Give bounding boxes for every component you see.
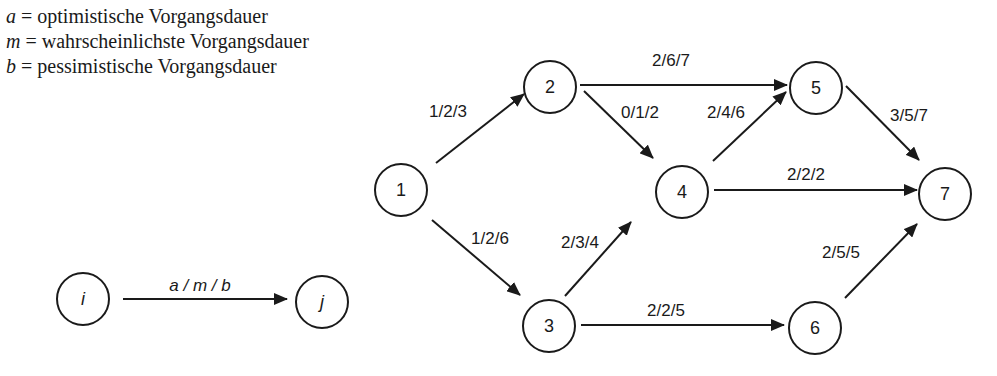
node-7: 7 (919, 168, 971, 220)
svg-text:7: 7 (940, 184, 950, 204)
edge-2-5: 2/6/7 (580, 51, 787, 85)
key-node-i: i (57, 273, 109, 325)
svg-text:2/4/6: 2/4/6 (707, 103, 745, 122)
svg-text:6: 6 (810, 318, 820, 338)
edge-1-3: 1/2/6 (432, 220, 520, 295)
edge-3-4: 2/3/4 (561, 222, 631, 296)
svg-text:2/5/5: 2/5/5 (822, 243, 860, 262)
svg-text:2/6/7: 2/6/7 (652, 51, 690, 70)
key-node-j: j (296, 276, 348, 328)
svg-text:2/2/2: 2/2/2 (787, 165, 825, 184)
key-edge: a / m / b (123, 276, 287, 299)
key-edge-label: a / m / b (169, 276, 230, 295)
node-5: 5 (790, 62, 842, 114)
svg-text:1/2/6: 1/2/6 (471, 229, 509, 248)
network-diagram: a / m / b i j 1/2/3 1/2/6 2/6/7 0/1/2 2/… (0, 0, 997, 376)
svg-text:2/2/5: 2/2/5 (647, 301, 685, 320)
edge-3-6: 2/2/5 (581, 301, 784, 325)
svg-text:3: 3 (544, 316, 554, 336)
node-6: 6 (789, 302, 841, 354)
svg-text:5: 5 (811, 78, 821, 98)
svg-text:2: 2 (545, 77, 555, 97)
svg-text:1: 1 (396, 180, 406, 200)
svg-text:i: i (81, 289, 86, 309)
svg-text:4: 4 (677, 182, 687, 202)
edge-6-7: 2/5/5 (822, 224, 917, 298)
svg-text:j: j (317, 292, 325, 312)
edge-4-7: 2/2/2 (714, 165, 917, 190)
edge-2-4: 0/1/2 (584, 91, 659, 158)
edge-5-7: 3/5/7 (846, 86, 928, 160)
svg-text:2/3/4: 2/3/4 (561, 233, 599, 252)
svg-text:0/1/2: 0/1/2 (621, 103, 659, 122)
node-4: 4 (656, 166, 708, 218)
node-1: 1 (375, 164, 427, 216)
edge-1-2: 1/2/3 (429, 94, 524, 163)
svg-text:1/2/3: 1/2/3 (429, 102, 467, 121)
edge-4-5: 2/4/6 (707, 92, 786, 161)
svg-text:3/5/7: 3/5/7 (890, 106, 928, 125)
node-2: 2 (524, 61, 576, 113)
node-3: 3 (523, 300, 575, 352)
